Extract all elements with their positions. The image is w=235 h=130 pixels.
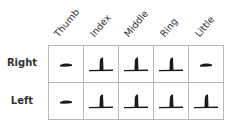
row-label-left: Left <box>0 95 44 106</box>
cell-left-middle <box>119 83 154 120</box>
t-shape-icon <box>154 83 188 119</box>
column-label-middle: Middle <box>122 8 151 39</box>
cell-left-little <box>189 83 224 120</box>
cell-right-thumb <box>49 46 84 83</box>
grid-row-right <box>49 46 224 83</box>
column-label-thumb: Thumb <box>52 7 82 39</box>
column-label-little: Little <box>193 14 217 39</box>
cell-right-little <box>189 46 224 83</box>
dash-icon <box>49 83 83 119</box>
cell-right-ring <box>154 46 189 83</box>
dash-icon <box>49 46 83 82</box>
cell-left-ring <box>154 83 189 120</box>
cell-left-index <box>84 83 119 120</box>
t-shape-icon <box>154 46 188 82</box>
t-shape-icon <box>119 46 153 82</box>
t-shape-icon <box>189 83 223 119</box>
t-shape-icon <box>84 83 118 119</box>
cell-right-middle <box>119 46 154 83</box>
column-label-index: Index <box>88 12 113 39</box>
finger-grid <box>48 45 224 120</box>
t-shape-icon <box>119 83 153 119</box>
row-label-right: Right <box>0 57 44 68</box>
t-shape-icon <box>84 46 118 82</box>
column-label-ring: Ring <box>158 16 180 39</box>
cell-left-thumb <box>49 83 84 120</box>
dash-icon <box>189 46 223 82</box>
grid-row-left <box>49 83 224 120</box>
cell-right-index <box>84 46 119 83</box>
